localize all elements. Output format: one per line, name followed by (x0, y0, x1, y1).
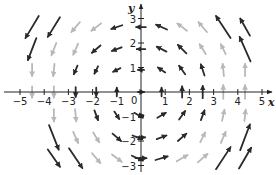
vector-arrow (112, 154, 122, 161)
vector-arrow (216, 147, 231, 169)
vector-arrow (114, 112, 119, 119)
vector-arrow (73, 44, 78, 55)
vector-arrow (178, 45, 186, 54)
vector-arrow (51, 43, 56, 55)
vector-arrow (113, 134, 121, 141)
vector-arrow (221, 44, 226, 54)
x-tick-label: 3 (210, 96, 216, 107)
vector-arrow (156, 156, 168, 160)
vector-arrow (178, 134, 186, 141)
x-axis-label: x (267, 96, 275, 109)
vector-arrow (94, 66, 98, 73)
vector-arrow (158, 68, 165, 73)
vector-arrow (75, 109, 76, 121)
y-tick-label: 1 (130, 63, 136, 74)
vector-arrow (53, 64, 54, 76)
vector-arrow (71, 22, 79, 32)
y-tick-label: 3 (130, 14, 136, 25)
vector-arrows (25, 16, 251, 169)
vector-arrow (216, 16, 231, 38)
y-tick-label: 2 (130, 38, 136, 49)
vector-arrow (28, 38, 36, 60)
vector-arrow (73, 132, 78, 143)
vector-arrow (93, 132, 99, 142)
vector-arrow (74, 66, 78, 75)
vector-arrow (200, 44, 206, 54)
origin-label: 0 (131, 95, 137, 106)
x-tick-label: 4 (235, 96, 241, 107)
vector-arrow (221, 132, 226, 143)
vector-arrow (157, 135, 167, 139)
vector-arrow (112, 47, 122, 51)
x-tick-label: −1 (109, 96, 124, 107)
vector-arrow (201, 64, 205, 75)
y-tick-label: −1 (121, 112, 136, 123)
vector-arrow (157, 47, 167, 52)
vector-field-plot: −5−4−3−2−112345 −3−2−1123 x y 0 (0, 0, 276, 175)
vector-arrow (201, 110, 205, 120)
vector-arrow (240, 37, 251, 62)
x-tick-label: 5 (259, 96, 265, 107)
vector-arrow (48, 150, 60, 167)
vector-arrow (92, 153, 100, 163)
vector-arrow (25, 16, 38, 38)
vector-arrow (69, 148, 82, 168)
vector-arrow (198, 154, 208, 163)
y-tick-label: −2 (121, 136, 136, 147)
vector-arrow (49, 125, 59, 150)
vector-arrow (113, 68, 120, 72)
vector-arrow (157, 113, 165, 118)
vector-arrow (179, 66, 185, 75)
vector-arrow (177, 155, 188, 161)
x-tick-label: −4 (37, 96, 52, 107)
x-tick-label: 2 (186, 96, 192, 107)
x-tick-label: −5 (13, 96, 28, 107)
vector-arrow (223, 64, 224, 76)
vector-arrow (240, 124, 250, 150)
vector-arrow (239, 148, 251, 169)
vector-arrow (177, 23, 187, 30)
x-tick-label: 1 (162, 96, 168, 107)
vector-arrow (222, 110, 224, 121)
vector-arrow (198, 22, 206, 32)
x-tick-label: −2 (85, 96, 100, 107)
vector-arrow (111, 25, 122, 29)
vector-arrow (240, 19, 250, 36)
vector-arrow (48, 17, 60, 37)
vector-arrow (244, 110, 245, 121)
vector-arrow (92, 45, 100, 52)
vector-arrow (200, 132, 205, 142)
vector-arrow (91, 23, 101, 30)
vector-arrow (94, 110, 98, 120)
vector-arrow (179, 111, 185, 120)
x-tick-label: −3 (61, 96, 76, 107)
y-tick-label: −3 (121, 161, 136, 172)
vector-arrow (156, 25, 167, 30)
